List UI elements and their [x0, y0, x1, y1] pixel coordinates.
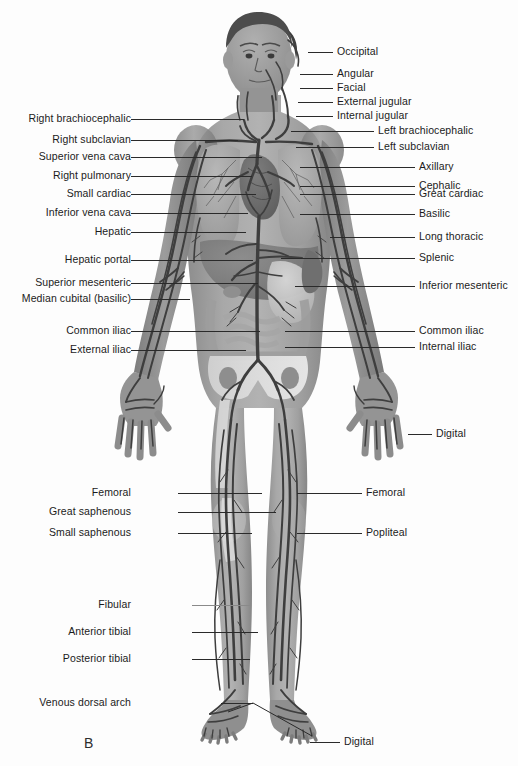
leader-femoral — [178, 493, 262, 494]
leader-internal-jugular-right — [296, 116, 333, 117]
label-common-iliac-right: Common iliac — [419, 325, 484, 336]
leader-inferior-mesenteric-right — [295, 286, 415, 287]
label-popliteal-right: Popliteal — [366, 527, 407, 538]
leader-right-pulmonary — [131, 176, 252, 177]
label-superior-mesenteric: Superior mesenteric — [35, 277, 131, 288]
label-hepatic: Hepatic — [95, 226, 131, 237]
leader-common-iliac-right — [285, 331, 415, 332]
leader-digital-right — [408, 434, 432, 435]
leader-facial-right — [300, 88, 333, 89]
label-venous-dorsal-arch: Venous dorsal arch — [39, 697, 131, 708]
label-basilic-right: Basilic — [419, 208, 450, 219]
figure-letter: B — [84, 735, 93, 751]
leader-anterior-tibial — [192, 632, 258, 633]
leader-femoral-right — [297, 493, 362, 494]
leader-inferior-vena-cava — [131, 213, 248, 214]
left-hand — [118, 372, 168, 457]
label-angular-right: Angular — [337, 68, 374, 79]
leader-superior-mesenteric — [131, 283, 258, 284]
label-small-cardiac: Small cardiac — [67, 188, 131, 199]
label-superior-vena-cava: Superior vena cava — [39, 151, 131, 162]
leader-great-saphenous — [178, 512, 276, 513]
leader-small-saphenous — [178, 533, 252, 534]
label-right-brachiocephalic: Right brachiocephalic — [29, 113, 132, 124]
label-common-iliac: Common iliac — [66, 325, 131, 336]
leader-venous-dorsal-arch — [221, 703, 253, 704]
leader-occipital-right — [308, 52, 333, 53]
label-facial-right: Facial — [337, 82, 366, 93]
leader-digital-right — [310, 742, 340, 743]
leader-basilic-right — [300, 214, 415, 215]
leader-median-cubital-basilic — [131, 299, 190, 300]
label-median-cubital-basilic: Median cubital (basilic) — [22, 293, 131, 304]
leader-superior-vena-cava — [131, 157, 262, 158]
leader-posterior-tibial — [192, 659, 250, 660]
label-internal-iliac-right: Internal iliac — [419, 341, 476, 352]
leader-external-jugular-right — [298, 102, 333, 103]
label-external-iliac: External iliac — [70, 344, 131, 355]
label-occipital-right: Occipital — [337, 46, 378, 57]
leader-axillary-right — [300, 167, 415, 168]
leader-internal-iliac-right — [285, 347, 415, 348]
label-digital-right: Digital — [344, 736, 374, 747]
leader-right-brachiocephalic — [131, 119, 244, 120]
label-femoral: Femoral — [92, 487, 131, 498]
label-splenic-right: Splenic — [419, 252, 454, 263]
label-internal-jugular-right: Internal jugular — [337, 110, 408, 121]
leader-cephalic-right — [300, 186, 415, 187]
body-silhouette — [118, 12, 400, 743]
leader-hepatic — [131, 232, 246, 233]
label-hepatic-portal: Hepatic portal — [65, 254, 131, 265]
label-digital-right: Digital — [436, 428, 466, 439]
label-left-subclavian-right: Left subclavian — [378, 141, 450, 152]
label-posterior-tibial: Posterior tibial — [63, 653, 131, 664]
label-great-cardiac-right: Great cardiac — [419, 188, 483, 199]
leader-common-iliac — [131, 331, 260, 332]
label-small-saphenous: Small saphenous — [49, 527, 131, 538]
leader-long-thoracic-right — [330, 237, 415, 238]
right-hand — [350, 372, 400, 457]
label-great-saphenous: Great saphenous — [49, 506, 131, 517]
label-femoral-right: Femoral — [366, 487, 405, 498]
label-left-brachiocephalic-right: Left brachiocephalic — [378, 125, 473, 136]
label-right-pulmonary: Right pulmonary — [53, 170, 131, 181]
leader-splenic-right — [281, 258, 415, 259]
leader-small-cardiac — [131, 194, 256, 195]
leader-popliteal-right — [297, 533, 362, 534]
label-inferior-vena-cava: Inferior vena cava — [46, 207, 131, 218]
label-right-subclavian: Right subclavian — [52, 134, 131, 145]
label-inferior-mesenteric-right: Inferior mesenteric — [419, 280, 508, 291]
venous-system-figure: Right brachiocephalicRight subclavianSup… — [0, 0, 518, 766]
leader-fibular — [192, 605, 250, 606]
label-fibular: Fibular — [98, 599, 131, 610]
leader-external-iliac — [131, 350, 246, 351]
leader-left-subclavian-right — [296, 147, 374, 148]
leader-hepatic-portal — [131, 260, 253, 261]
label-long-thoracic-right: Long thoracic — [419, 231, 483, 242]
leader-great-cardiac-right — [300, 194, 415, 195]
leader-right-subclavian — [131, 140, 238, 141]
label-external-jugular-right: External jugular — [337, 96, 412, 107]
leader-angular-right — [300, 74, 333, 75]
leader-left-brachiocephalic-right — [291, 131, 374, 132]
label-anterior-tibial: Anterior tibial — [68, 626, 131, 637]
label-axillary-right: Axillary — [419, 161, 454, 172]
